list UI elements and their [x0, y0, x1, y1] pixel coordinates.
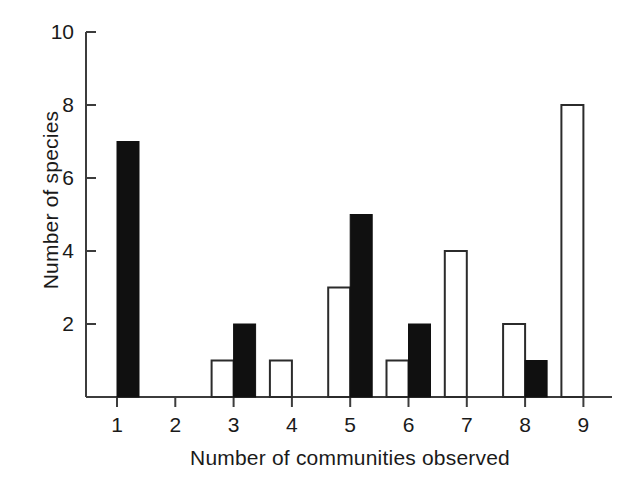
y-tick-label: 8: [62, 93, 74, 116]
x-tick-label: 4: [286, 413, 298, 436]
x-tick-label: 6: [403, 413, 415, 436]
bar-filled-bars-3: [234, 324, 256, 397]
bar-open-bars-8: [503, 324, 525, 397]
bar-filled-bars-1: [117, 142, 139, 398]
x-tick-label: 7: [461, 413, 473, 436]
y-tick-label: 4: [62, 239, 74, 262]
x-tick-label: 1: [111, 413, 123, 436]
x-tick-label: 2: [169, 413, 181, 436]
bar-open-bars-7: [445, 251, 467, 397]
chart-figure: Number of species Number of communities …: [0, 0, 629, 484]
bar-open-bars-5: [328, 288, 350, 398]
x-tick-label: 8: [519, 413, 531, 436]
y-tick-label: 6: [62, 166, 74, 189]
plot-area: 246810123456789: [0, 0, 629, 484]
bars-group: [117, 105, 583, 397]
x-tick-label: 5: [344, 413, 356, 436]
bar-open-bars-9: [561, 105, 583, 397]
bar-open-bars-6: [387, 361, 409, 398]
bar-filled-bars-5: [350, 215, 372, 398]
bar-filled-bars-6: [409, 324, 431, 397]
bar-open-bars-4: [270, 361, 292, 398]
y-tick-label: 2: [62, 312, 74, 335]
bar-filled-bars-8: [525, 361, 547, 398]
y-tick-label: 10: [51, 20, 74, 43]
x-tick-label: 3: [228, 413, 240, 436]
x-tick-label: 9: [578, 413, 590, 436]
bar-open-bars-3: [212, 361, 234, 398]
